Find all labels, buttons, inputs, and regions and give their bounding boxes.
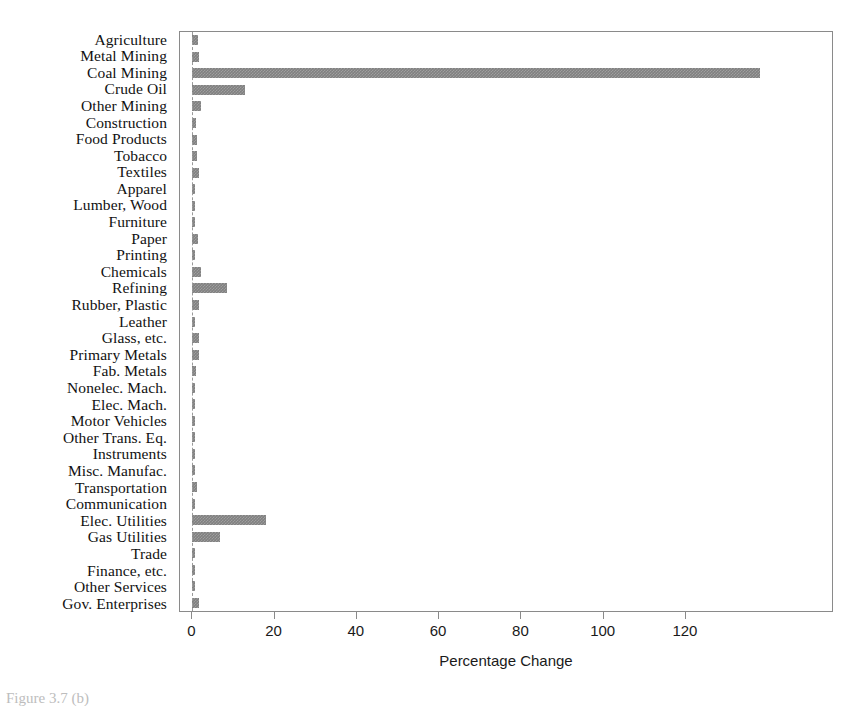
x-axis-tick xyxy=(520,612,521,619)
category-label: Furniture xyxy=(0,214,172,231)
category-label: Transportation xyxy=(0,479,172,496)
category-label: Gas Utilities xyxy=(0,529,172,546)
category-label: Lumber, Wood xyxy=(0,197,172,214)
x-axis-tick xyxy=(603,612,604,619)
bar-row xyxy=(180,181,832,198)
category-label: Textiles xyxy=(0,164,172,181)
bar-row xyxy=(180,413,832,430)
bar-row xyxy=(180,231,832,248)
bar-row xyxy=(180,446,832,463)
bar xyxy=(192,532,220,542)
category-label: Finance, etc. xyxy=(0,562,172,579)
bar-row xyxy=(180,479,832,496)
x-axis-tick xyxy=(356,612,357,619)
bar-row xyxy=(180,330,832,347)
x-axis-tick xyxy=(685,612,686,619)
category-label: Misc. Manufac. xyxy=(0,462,172,479)
bar-row xyxy=(180,32,832,49)
bar-row xyxy=(180,148,832,165)
category-label: Metal Mining xyxy=(0,48,172,65)
bar-row xyxy=(180,131,832,148)
bar xyxy=(192,85,244,95)
x-axis-tick-label: 20 xyxy=(265,622,282,639)
category-label: Primary Metals xyxy=(0,346,172,363)
bar-row xyxy=(180,495,832,512)
bar xyxy=(192,515,265,525)
category-label: Tobacco xyxy=(0,147,172,164)
x-axis-tick xyxy=(274,612,275,619)
bar-row xyxy=(180,363,832,380)
category-label: Apparel xyxy=(0,180,172,197)
category-label: Agriculture xyxy=(0,31,172,48)
x-axis-tick-label: 0 xyxy=(187,622,195,639)
bars-container xyxy=(180,32,832,611)
category-label: Elec. Utilities xyxy=(0,512,172,529)
bar-row xyxy=(180,197,832,214)
bar-row xyxy=(180,528,832,545)
category-label: Printing xyxy=(0,247,172,264)
bar-row xyxy=(180,578,832,595)
bar-row xyxy=(180,164,832,181)
category-label: Chemicals xyxy=(0,263,172,280)
x-axis-tick xyxy=(191,612,192,619)
bar-row xyxy=(180,379,832,396)
bar-row xyxy=(180,297,832,314)
x-axis-tick-label: 40 xyxy=(348,622,365,639)
bar xyxy=(192,68,760,78)
x-axis-title: Percentage Change xyxy=(179,652,833,669)
category-label: Gov. Enterprises xyxy=(0,595,172,612)
bar-row xyxy=(180,562,832,579)
bar-row xyxy=(180,115,832,132)
category-label: Communication xyxy=(0,496,172,513)
x-axis-tick-label: 120 xyxy=(672,622,697,639)
chart-figure: AgricultureMetal MiningCoal MiningCrude … xyxy=(0,0,867,706)
bar-row xyxy=(180,512,832,529)
bar xyxy=(192,283,227,293)
category-label: Other Trans. Eq. xyxy=(0,429,172,446)
category-label: Fab. Metals xyxy=(0,363,172,380)
category-label: Paper xyxy=(0,230,172,247)
bar-row xyxy=(180,313,832,330)
bar-row xyxy=(180,346,832,363)
bar-row xyxy=(180,462,832,479)
category-label: Food Products xyxy=(0,131,172,148)
zero-reference-line xyxy=(192,32,194,611)
category-label: Elec. Mach. xyxy=(0,396,172,413)
category-label: Instruments xyxy=(0,446,172,463)
category-label: Refining xyxy=(0,280,172,297)
bar-row xyxy=(180,545,832,562)
category-label: Other Mining xyxy=(0,97,172,114)
category-label: Rubber, Plastic xyxy=(0,297,172,314)
bar-row xyxy=(180,280,832,297)
x-axis-tick-label: 100 xyxy=(590,622,615,639)
category-label: Other Services xyxy=(0,579,172,596)
x-axis-tick-label: 60 xyxy=(430,622,447,639)
bar-row xyxy=(180,247,832,264)
category-label: Coal Mining xyxy=(0,64,172,81)
x-axis-tick xyxy=(438,612,439,619)
category-label: Construction xyxy=(0,114,172,131)
category-axis-labels: AgricultureMetal MiningCoal MiningCrude … xyxy=(0,31,172,612)
bar-row xyxy=(180,214,832,231)
bar-row xyxy=(180,595,832,612)
bar-row xyxy=(180,264,832,281)
category-label: Leather xyxy=(0,313,172,330)
plot-area xyxy=(179,31,833,612)
category-label: Crude Oil xyxy=(0,81,172,98)
x-axis: 020406080100120 xyxy=(179,612,833,613)
category-label: Nonelec. Mach. xyxy=(0,379,172,396)
bar-row xyxy=(180,65,832,82)
bar-row xyxy=(180,429,832,446)
bar-row xyxy=(180,396,832,413)
bar-row xyxy=(180,98,832,115)
figure-caption: Figure 3.7 (b) xyxy=(6,690,306,706)
x-axis-tick-label: 80 xyxy=(512,622,529,639)
category-label: Trade xyxy=(0,545,172,562)
bar-row xyxy=(180,82,832,99)
category-label: Motor Vehicles xyxy=(0,413,172,430)
bar-row xyxy=(180,49,832,66)
category-label: Glass, etc. xyxy=(0,330,172,347)
